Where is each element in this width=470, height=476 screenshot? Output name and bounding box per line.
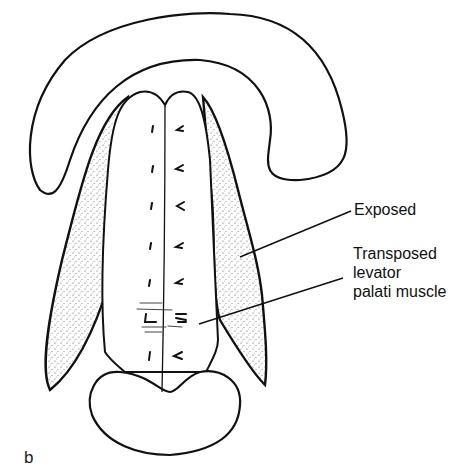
label-transposed-muscle: Transposed levator palati muscle <box>353 244 446 301</box>
label-line-3: palati muscle <box>353 282 446 301</box>
exposed-leader-line <box>240 211 351 257</box>
panel-label: b <box>24 448 33 468</box>
palatal-flaps <box>102 91 218 372</box>
label-line-1: Transposed <box>353 244 446 263</box>
palate-diagram <box>0 0 470 476</box>
uvula <box>90 371 240 455</box>
caption-clipped <box>0 470 470 476</box>
label-exposed: Exposed <box>354 200 416 219</box>
label-line-2: levator <box>353 263 446 282</box>
